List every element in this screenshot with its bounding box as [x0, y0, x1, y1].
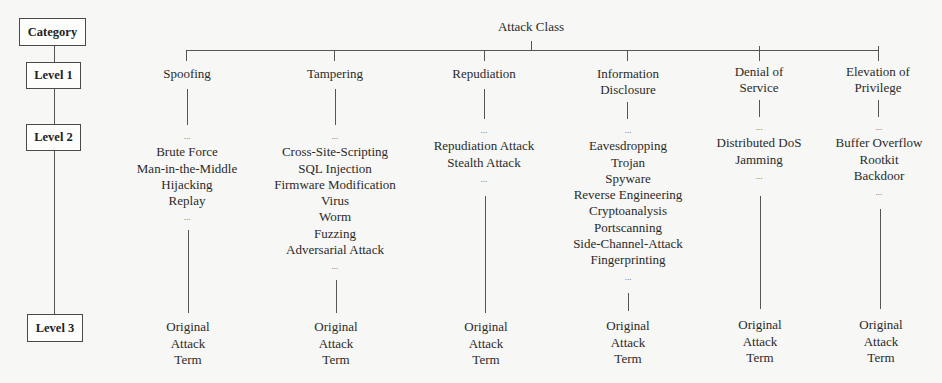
connector-denial-of-service-upper — [759, 100, 760, 117]
example-item: Backdoor — [836, 168, 923, 184]
ellipsis: ... — [717, 168, 802, 184]
legend-level2-label: Level 2 — [34, 130, 73, 145]
bracket-drop-denial-of-service — [759, 46, 760, 61]
example-item: Brute Force — [137, 144, 237, 160]
example-item: Hijacking — [137, 177, 237, 193]
example-item: Firmware Modification — [274, 177, 396, 193]
example-item: Reverse Engineering — [573, 187, 683, 203]
ellipsis: ... — [573, 122, 683, 138]
legend-level3-label: Level 3 — [36, 321, 75, 336]
bracket-drop-elevation-of-privilege — [878, 46, 879, 61]
bracket-drop-repudiation — [484, 50, 485, 61]
connector-repudiation-upper — [484, 89, 485, 119]
example-item: SQL Injection — [274, 161, 396, 177]
root-bracket-line — [186, 50, 879, 51]
legend-box-level2: Level 2 — [26, 124, 81, 151]
ellipsis: ... — [573, 269, 683, 285]
class-label-denial-of-service: Denial of Service — [735, 64, 784, 96]
bracket-drop-information-disclosure — [627, 50, 628, 61]
example-item: Trojan — [573, 155, 683, 171]
connector-information-disclosure-upper — [627, 102, 628, 119]
examples-information-disclosure: ... Eavesdropping Trojan Spyware Reverse… — [573, 122, 683, 285]
ellipsis: ... — [274, 128, 396, 144]
example-item: Distributed DoS — [717, 135, 802, 151]
root-tick — [531, 41, 532, 50]
example-item: Replay — [137, 193, 237, 209]
legend-level1-label: Level 1 — [34, 68, 73, 83]
bracket-drop-tampering — [334, 50, 335, 61]
term-tampering: Original Attack Term — [314, 319, 357, 369]
example-item: Side-Channel-Attack — [573, 236, 683, 252]
examples-repudiation: ... Repudiation Attack Stealth Attack ..… — [434, 122, 535, 187]
class-label-repudiation: Repudiation — [452, 66, 516, 82]
term-spoofing: Original Attack Term — [166, 319, 209, 369]
connector-information-disclosure-lower — [628, 293, 629, 311]
connector-spoofing-upper — [187, 89, 188, 125]
example-item: Spyware — [573, 171, 683, 187]
examples-tampering: ... Cross-Site-Scripting SQL Injection F… — [274, 128, 396, 275]
term-repudiation: Original Attack Term — [464, 319, 507, 369]
bracket-drop-spoofing — [186, 50, 187, 61]
ellipsis: ... — [836, 184, 923, 200]
example-item: Fuzzing — [274, 226, 396, 242]
legend-box-level3: Level 3 — [27, 314, 83, 342]
legend-box-level1: Level 1 — [26, 62, 81, 89]
example-item: Fingerprinting — [573, 252, 683, 268]
connector-elevation-of-privilege-upper — [878, 100, 879, 117]
example-item: Buffer Overflow — [836, 135, 923, 151]
legend-box-category: Category — [19, 18, 86, 46]
ellipsis: ... — [274, 258, 396, 274]
example-item: Portscanning — [573, 220, 683, 236]
class-label-elevation-of-privilege: Elevation of Privilege — [846, 64, 910, 96]
class-label-information-disclosure: Information Disclosure — [597, 66, 659, 98]
class-label-tampering: Tampering — [307, 66, 363, 82]
example-item: Cryptoanalysis — [573, 203, 683, 219]
example-item: Worm — [274, 209, 396, 225]
ellipsis: ... — [137, 128, 237, 144]
ellipsis: ... — [137, 209, 237, 225]
example-item: Jamming — [717, 152, 802, 168]
example-item: Man-in-the-Middle — [137, 161, 237, 177]
term-elevation-of-privilege: Original Attack Term — [859, 317, 902, 367]
connector-tampering-upper — [335, 89, 336, 125]
legend-category-label: Category — [28, 25, 77, 40]
connector-repudiation-lower — [485, 196, 486, 313]
ellipsis: ... — [836, 119, 923, 135]
example-item: Rootkit — [836, 152, 923, 168]
example-item: Stealth Attack — [434, 155, 535, 171]
term-denial-of-service: Original Attack Term — [738, 317, 781, 367]
example-item: Cross-Site-Scripting — [274, 144, 396, 160]
examples-elevation-of-privilege: ... Buffer Overflow Rootkit Backdoor ... — [836, 119, 923, 200]
connector-tampering-lower — [336, 280, 337, 313]
example-item: Repudiation Attack — [434, 138, 535, 154]
example-item: Virus — [274, 193, 396, 209]
term-information-disclosure: Original Attack Term — [606, 318, 649, 368]
examples-denial-of-service: ... Distributed DoS Jamming ... — [717, 119, 802, 184]
class-label-spoofing: Spoofing — [163, 66, 211, 82]
ellipsis: ... — [434, 122, 535, 138]
connector-elevation-of-privilege-lower — [880, 209, 881, 309]
attack-taxonomy-diagram: Category Level 1 Level 2 Level 3 Attack … — [0, 0, 942, 383]
connector-denial-of-service-lower — [760, 196, 761, 309]
connector-spoofing-lower — [188, 230, 189, 313]
ellipsis: ... — [434, 171, 535, 187]
root-label-attack-class: Attack Class — [498, 19, 564, 35]
ellipsis: ... — [717, 119, 802, 135]
examples-spoofing: ... Brute Force Man-in-the-Middle Hijack… — [137, 128, 237, 226]
example-item: Adversarial Attack — [274, 242, 396, 258]
example-item: Eavesdropping — [573, 138, 683, 154]
